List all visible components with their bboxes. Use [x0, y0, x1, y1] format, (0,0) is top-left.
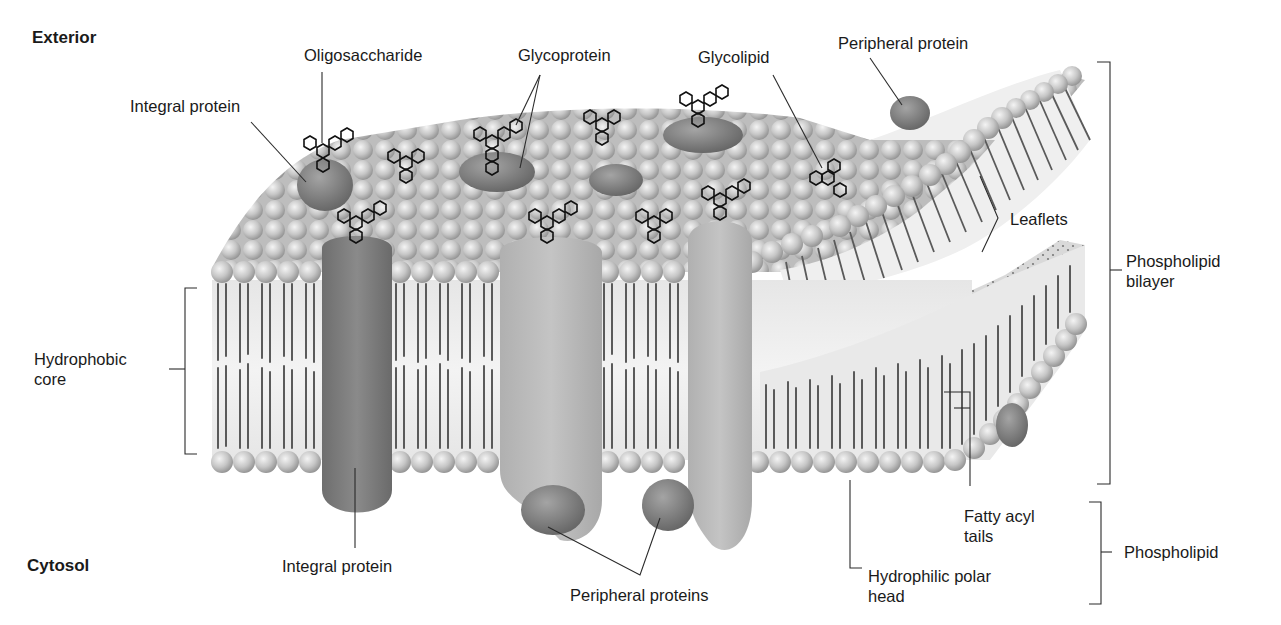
region-label-cytosol: Cytosol	[27, 556, 89, 576]
peripheral-protein-cytosol-1	[521, 485, 585, 535]
label-glycolipid: Glycolipid	[698, 47, 770, 67]
surface-protein-center	[589, 164, 643, 196]
transmembrane-protein-light-2	[688, 221, 752, 550]
label-glycoprotein: Glycoprotein	[518, 45, 611, 65]
label-hydrophobic-core: Hydrophobic core	[34, 349, 127, 389]
label-phospholipid: Phospholipid	[1124, 542, 1219, 562]
peripheral-protein-cytosol-2	[642, 479, 694, 531]
label-fatty-acyl-tails: Fatty acyl tails	[964, 506, 1035, 546]
label-peripheral-protein: Peripheral protein	[838, 33, 968, 53]
surface-protein-upper	[663, 117, 743, 153]
label-oligosaccharide: Oligosaccharide	[304, 45, 422, 65]
label-hydrophilic-polar-head: Hydrophilic polar head	[868, 566, 991, 606]
membrane-diagram	[0, 0, 1281, 625]
integral-protein-top	[297, 159, 353, 211]
label-integral-protein-top: Integral protein	[130, 96, 240, 116]
peripheral-protein-top	[890, 96, 930, 130]
label-leaflets: Leaflets	[1010, 209, 1068, 229]
label-integral-protein-bottom: Integral protein	[282, 556, 392, 576]
region-label-exterior: Exterior	[32, 28, 96, 48]
transmembrane-protein-dark	[322, 236, 392, 513]
label-phospholipid-bilayer: Phospholipid bilayer	[1126, 251, 1221, 291]
peripheral-protein-right-edge	[996, 403, 1028, 447]
label-peripheral-proteins: Peripheral proteins	[570, 585, 709, 605]
